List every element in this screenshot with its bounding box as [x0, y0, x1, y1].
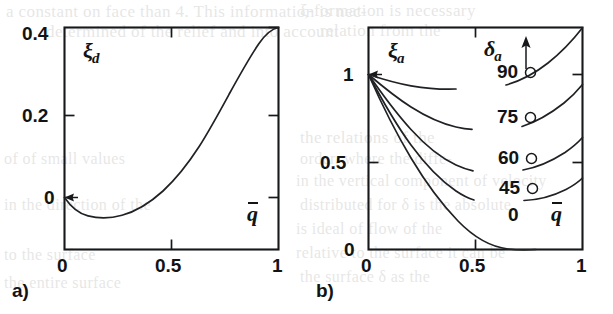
panel-b-curve-label-45: 45 — [499, 178, 520, 197]
panel-b-parameter-label: δa — [484, 38, 502, 64]
degree-ring-45 — [528, 184, 538, 194]
panel-b-xtick-label-0.5: 0.5 — [459, 256, 485, 275]
panel-b-xaxis-symbol: q — [551, 201, 562, 225]
figure-root: a constant on face than 4. This informat… — [0, 0, 613, 314]
degree-ring-90 — [526, 68, 536, 78]
panel-b-curve-label-75: 75 — [497, 107, 518, 126]
degree-ring-75 — [526, 113, 536, 123]
panel-b-yaxis-label: ξa — [388, 40, 404, 66]
panel-b-xaxis-label: q — [551, 201, 562, 225]
panel-b-curve-label-90: 90 — [497, 62, 518, 81]
panel-b-ytick-label-0.5: 0.5 — [320, 153, 346, 172]
delta-a-up-arrow-icon — [521, 36, 530, 69]
panel-b-xtick-label-0: 0 — [361, 256, 372, 275]
panel-b-curve-label-0: 0 — [508, 205, 519, 224]
degree-ring-60 — [527, 154, 537, 164]
panel-b-ytick-label-1: 1 — [343, 65, 354, 84]
panel-b-ytick-label-0: 0 — [344, 240, 355, 259]
panel-b-degree-rings — [0, 0, 613, 314]
panel-b-yaxis-subscript: a — [397, 50, 405, 66]
panel-b-xtick-label-1: 1 — [576, 256, 587, 275]
panel-b-curve-label-60: 60 — [498, 148, 519, 167]
panel-b-id: b) — [316, 281, 334, 300]
